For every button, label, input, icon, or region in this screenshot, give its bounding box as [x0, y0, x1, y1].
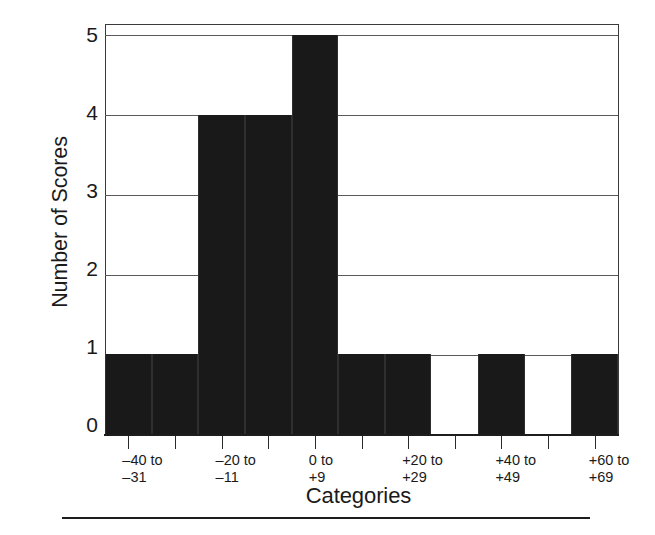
bar: [385, 354, 432, 434]
x-tick: [455, 436, 456, 449]
x-tick-label-line1: –40 to: [122, 452, 162, 469]
x-tick: [362, 436, 363, 449]
bar: [338, 354, 385, 434]
x-tick-label: +40 to+49: [495, 452, 536, 485]
x-tick-label-line1: +40 to: [495, 452, 536, 469]
bar: [152, 354, 199, 434]
bar-series: [105, 24, 618, 434]
y-tick-label-4: 4: [70, 102, 98, 123]
x-tick: [501, 436, 502, 449]
y-tick-label-3: 3: [70, 180, 98, 201]
x-tick: [315, 436, 316, 449]
bar: [292, 35, 339, 434]
x-tick: [595, 436, 596, 449]
y-tick-label-1: 1: [70, 336, 98, 357]
bar: [571, 354, 618, 434]
y-tick-label-5: 5: [70, 24, 98, 45]
x-tick-label-line1: +60 to: [589, 452, 630, 469]
x-tick: [175, 436, 176, 449]
bar: [105, 354, 152, 434]
y-axis-tick-labels: 5 4 3 2 1 0: [62, 0, 98, 535]
y-tick-label-0: 0: [70, 414, 98, 435]
x-tick-label: 0 to+9: [309, 452, 333, 485]
x-axis-title: Categories: [0, 483, 655, 509]
y-tick-label-2: 2: [70, 258, 98, 279]
x-tick-label-line1: 0 to: [309, 452, 333, 469]
x-axis-ticks: [105, 436, 618, 450]
frame-right-spine: [618, 24, 619, 434]
x-tick-label: –40 to–31: [122, 452, 162, 485]
plot-area: [105, 24, 618, 434]
x-tick-label-line1: +20 to: [402, 452, 443, 469]
x-tick-label: –20 to–11: [216, 452, 256, 485]
bar: [198, 115, 245, 434]
x-tick: [128, 436, 129, 449]
histogram-figure: Number of Scores 5 4 3 2 1 0 –40 to–31–2…: [0, 0, 655, 535]
bar: [245, 115, 292, 434]
x-tick: [548, 436, 549, 449]
x-tick: [268, 436, 269, 449]
bar: [478, 354, 525, 434]
x-tick: [408, 436, 409, 449]
x-tick-label-line1: –20 to: [216, 452, 256, 469]
x-tick-label: +60 to+69: [589, 452, 630, 485]
x-tick-label: +20 to+29: [402, 452, 443, 485]
x-tick: [222, 436, 223, 449]
figure-bottom-rule: [62, 517, 590, 519]
